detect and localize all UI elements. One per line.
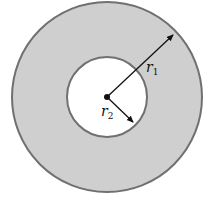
center-point [104, 94, 110, 100]
annulus-diagram: r1 r2 [0, 0, 214, 197]
